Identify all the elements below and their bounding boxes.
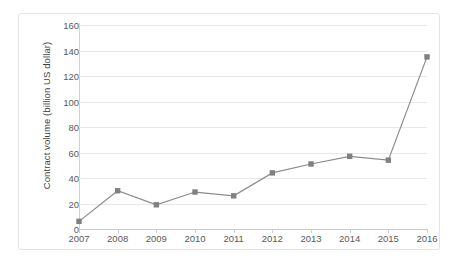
data-point-marker <box>231 193 236 198</box>
chart-plot-wrapper: Contract volume (billion US dollar) 0204… <box>19 14 441 251</box>
data-point-marker <box>347 154 352 159</box>
x-axis-tick-mark <box>195 229 196 233</box>
x-axis-tick-mark <box>311 229 312 233</box>
x-axis-tick-mark <box>234 229 235 233</box>
x-axis-tick-label: 2013 <box>291 233 331 244</box>
data-point-marker <box>154 202 159 207</box>
plot-area <box>79 25 427 229</box>
x-axis-tick-mark <box>272 229 273 233</box>
data-point-marker <box>115 188 120 193</box>
y-axis-tick-labels: 020406080100120140160 <box>43 14 79 251</box>
x-axis-tick-label: 2009 <box>136 233 176 244</box>
y-axis-tick-label: 140 <box>49 45 79 56</box>
x-axis-tick-labels: 2007200820092010201120122013201420152016 <box>79 233 427 249</box>
y-axis-tick-label: 120 <box>49 71 79 82</box>
y-axis-tick-label: 100 <box>49 96 79 107</box>
x-axis-tick-mark <box>350 229 351 233</box>
y-axis-tick-label: 160 <box>49 20 79 31</box>
x-axis-tick-label: 2015 <box>368 233 408 244</box>
data-point-marker <box>76 219 81 224</box>
x-axis-line <box>79 229 427 230</box>
x-axis-tick-mark <box>427 229 428 233</box>
y-axis-tick-label: 60 <box>49 147 79 158</box>
x-axis-tick-label: 2014 <box>330 233 370 244</box>
data-point-marker <box>424 54 429 59</box>
series-line <box>79 57 427 221</box>
x-axis-tick-mark <box>118 229 119 233</box>
data-point-marker <box>270 170 275 175</box>
data-point-marker <box>386 157 391 162</box>
line-series <box>79 25 427 229</box>
y-axis-tick-label: 40 <box>49 173 79 184</box>
x-axis-tick-mark <box>79 229 80 233</box>
data-point-marker <box>308 161 313 166</box>
y-axis-tick-label: 80 <box>49 122 79 133</box>
chart-frame: Contract volume (billion US dollar) 0204… <box>18 13 440 250</box>
x-axis-tick-label: 2011 <box>214 233 254 244</box>
x-axis-tick-mark <box>156 229 157 233</box>
x-axis-tick-label: 2010 <box>175 233 215 244</box>
x-axis-tick-mark <box>388 229 389 233</box>
x-axis-tick-label: 2016 <box>407 233 447 244</box>
y-axis-tick-label: 20 <box>49 198 79 209</box>
x-axis-tick-label: 2007 <box>59 233 99 244</box>
data-point-marker <box>192 189 197 194</box>
x-axis-tick-label: 2012 <box>252 233 292 244</box>
x-axis-tick-label: 2008 <box>98 233 138 244</box>
